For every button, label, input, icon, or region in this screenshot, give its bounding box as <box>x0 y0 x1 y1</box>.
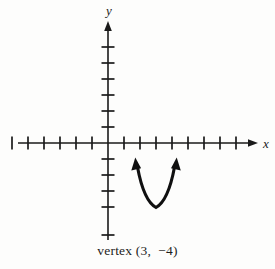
parabola-figure: x y <box>0 0 275 269</box>
vertex-caption: vertex (3, −4) <box>0 243 275 259</box>
coordinate-plane: x y <box>0 0 275 269</box>
parabola-path <box>138 167 175 208</box>
parabola-curve <box>131 158 181 208</box>
parabola-right-arrowhead-icon <box>171 158 181 171</box>
parabola-left-arrowhead-icon <box>131 158 141 171</box>
y-axis: y <box>102 3 115 240</box>
y-axis-arrowhead-icon <box>104 21 112 31</box>
y-axis-label: y <box>104 3 112 18</box>
x-axis: x <box>12 136 269 151</box>
x-axis-label: x <box>262 136 269 151</box>
x-axis-arrowhead-icon <box>248 139 258 147</box>
